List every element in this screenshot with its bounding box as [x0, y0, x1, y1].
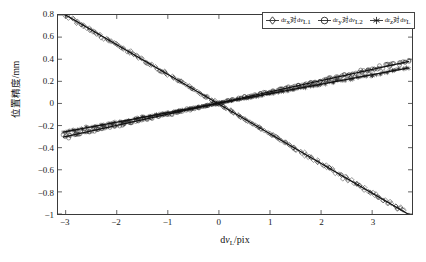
chart-figure: 0.80.60.40.20−0.2−0.4−0.6−0.8−1 位置精度/mm … [0, 0, 426, 262]
y-tick-label: −0.4 [38, 144, 54, 153]
x-axis-tick-labels: −3−2−10123 [57, 218, 413, 232]
plot-canvas [58, 15, 412, 214]
y-tick-label: −1 [44, 211, 54, 220]
y-tick-label: −0.6 [38, 166, 54, 175]
plot-area [57, 14, 413, 215]
x-tick-label: 2 [319, 218, 324, 227]
series-fit-line-1 [63, 61, 409, 137]
legend-item-label: drz对dvL [385, 16, 411, 26]
y-tick-label: 0.8 [43, 10, 54, 19]
y-tick-label: −0.8 [38, 188, 54, 197]
legend-item-label: drx对dvL1 [281, 16, 311, 26]
x-tick-label: −1 [163, 218, 173, 227]
y-tick-label: −0.2 [38, 121, 54, 130]
y-tick-label: 0 [50, 99, 55, 108]
legend-item-1[interactable]: dry对dvL2 [318, 15, 363, 26]
x-axis-title-text: dvL/pix [220, 234, 249, 245]
y-tick-label: 0.6 [43, 32, 54, 41]
y-axis-tick-labels: 0.80.60.40.20−0.2−0.4−0.6−0.8−1 [18, 14, 54, 215]
legend-item-2[interactable]: drz对dvL [370, 15, 411, 26]
diamond-marker-icon [266, 15, 279, 26]
x-tick-label: −2 [111, 218, 121, 227]
series-fit-line-2 [63, 68, 409, 132]
chart-legend: drx对dvL1dry对dvL2drz对dvL [262, 12, 415, 29]
legend-item-0[interactable]: drx对dvL1 [266, 15, 311, 26]
y-tick-label: 0.4 [43, 54, 54, 63]
x-tick-label: 1 [268, 218, 273, 227]
asterisk-marker-icon [370, 15, 383, 26]
x-tick-label: −3 [60, 218, 70, 227]
x-axis-title: dvL/pix [57, 234, 413, 249]
circle-marker-icon [318, 15, 331, 26]
legend-item-label: dry对dvL2 [333, 16, 363, 26]
y-tick-label: 0.2 [43, 77, 54, 86]
x-tick-label: 3 [371, 218, 376, 227]
y-axis-title: 位置精度/mm [11, 42, 22, 138]
x-tick-label: 0 [217, 218, 222, 227]
